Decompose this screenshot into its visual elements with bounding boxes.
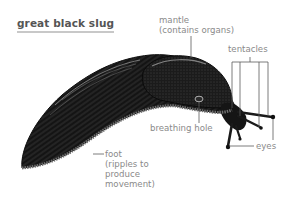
label-mantle-line-2: (contains organs) <box>159 25 234 35</box>
label-foot-line-3: produce <box>105 169 155 179</box>
label-eyes: eyes <box>256 141 276 151</box>
label-foot: foot (ripples to produce movement) <box>105 149 155 189</box>
label-foot-line-4: movement) <box>105 179 155 189</box>
label-breathing-hole: breathing hole <box>150 123 213 133</box>
label-foot-line-2: (ripples to <box>105 159 155 169</box>
label-tentacles: tentacles <box>228 44 268 54</box>
label-mantle-line-1: mantle <box>159 15 234 25</box>
label-foot-line-1: foot <box>105 149 155 159</box>
label-mantle: mantle (contains organs) <box>159 15 234 35</box>
slug-anatomy-diagram: great black slug mantle (contains organs… <box>0 0 292 198</box>
breathing-hole-marker <box>195 96 203 102</box>
diagram-title: great black slug <box>17 17 114 33</box>
